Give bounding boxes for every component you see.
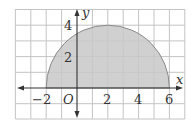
- y-tick-4: 4: [64, 18, 72, 33]
- x-axis-arrow-left-icon: [17, 86, 24, 91]
- y-tick-2: 2: [64, 50, 72, 65]
- x-tick-4: 4: [134, 92, 142, 107]
- origin-label: O: [63, 92, 74, 107]
- y-axis-arrow-up-icon: [75, 9, 80, 16]
- y-axis-arrow-down-icon: [75, 111, 80, 118]
- x-axis-label: x: [176, 72, 184, 87]
- x-tick-6: 6: [165, 92, 173, 107]
- semicircle-chart: y x O −2 2 4 6 4 2: [0, 0, 192, 123]
- y-axis-label: y: [81, 5, 90, 20]
- x-tick-minus2: −2: [32, 92, 51, 107]
- x-tick-2: 2: [103, 92, 111, 107]
